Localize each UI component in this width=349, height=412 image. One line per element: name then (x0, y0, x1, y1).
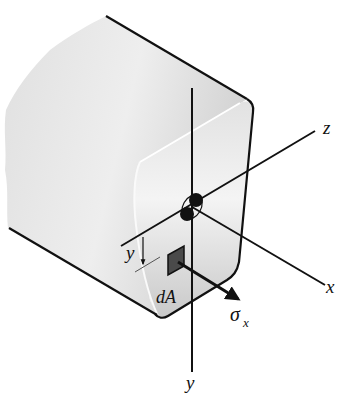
beam-stress-diagram: z x y y dA σ x (0, 0, 349, 412)
stress-label: σ (230, 303, 241, 325)
dA-label: dA (156, 287, 177, 307)
stress-subscript-label: x (242, 315, 249, 330)
y-distance-label: y (124, 242, 135, 263)
x-axis-label: x (325, 276, 335, 297)
z-axis-label: z (322, 117, 331, 138)
y-axis-label: y (184, 372, 195, 393)
